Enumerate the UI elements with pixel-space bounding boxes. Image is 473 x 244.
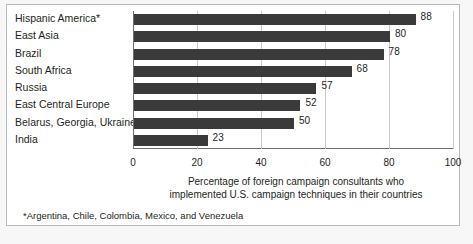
bar-value-label: 68 (357, 63, 368, 74)
bar-row: 57 (134, 83, 316, 94)
bar (134, 66, 352, 77)
bar-value-label: 80 (395, 28, 406, 39)
category-label: Belarus, Georgia, Ukraine (15, 117, 136, 128)
category-label: Russia (15, 82, 47, 93)
x-tick-label-100: 100 (445, 157, 462, 168)
bar-row: 23 (134, 135, 208, 146)
bar (134, 118, 294, 129)
bar (134, 49, 384, 60)
category-axis-labels: Hispanic America*East AsiaBrazilSouth Af… (15, 11, 129, 149)
bar-row: 88 (134, 14, 416, 25)
bar-value-label: 57 (321, 80, 332, 91)
bar-row: 80 (134, 31, 390, 42)
bar-value-label: 88 (421, 11, 432, 22)
bar (134, 100, 300, 111)
bar (134, 31, 390, 42)
category-label: East Central Europe (15, 99, 110, 110)
x-tick-label-20: 20 (191, 157, 202, 168)
figure-background: Hispanic America*East AsiaBrazilSouth Af… (0, 0, 473, 244)
bar-value-label: 52 (305, 97, 316, 108)
category-label: India (15, 134, 38, 145)
x-axis-line (133, 148, 453, 149)
bar-value-label: 78 (389, 46, 400, 57)
category-label: Hispanic America* (15, 13, 100, 24)
chart-frame: Hispanic America*East AsiaBrazilSouth Af… (6, 4, 460, 226)
bar-row: 78 (134, 49, 384, 60)
category-label: East Asia (15, 30, 59, 41)
x-tick-label-40: 40 (255, 157, 266, 168)
bar-row: 50 (134, 118, 294, 129)
x-tick-label-60: 60 (319, 157, 330, 168)
category-label: South Africa (15, 65, 72, 76)
gridline-100 (453, 11, 454, 149)
bar-row: 52 (134, 100, 300, 111)
plot-area: 0204060801008880786857525023 (133, 11, 453, 149)
bar (134, 83, 316, 94)
footnote: *Argentina, Chile, Colombia, Mexico, and… (23, 210, 243, 222)
axis-caption-line-1: Percentage of foreign campaign consultan… (133, 175, 459, 188)
x-tick-label-0: 0 (130, 157, 136, 168)
x-tick-label-80: 80 (383, 157, 394, 168)
bar-row: 68 (134, 66, 352, 77)
bar (134, 135, 208, 146)
axis-caption: Percentage of foreign campaign consultan… (133, 175, 459, 201)
category-label: Brazil (15, 48, 41, 59)
bar-value-label: 50 (299, 115, 310, 126)
bar (134, 14, 416, 25)
axis-caption-line-2: implemented U.S. campaign techniques in … (133, 188, 459, 201)
bar-value-label: 23 (213, 132, 224, 143)
